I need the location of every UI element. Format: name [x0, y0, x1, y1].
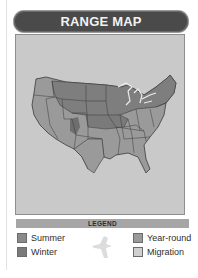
legend-label-year-round: Year-round	[147, 233, 191, 243]
legend-header: LEGEND	[16, 219, 189, 228]
central-range	[86, 115, 128, 129]
legend-label-summer: Summer	[31, 233, 65, 243]
legend-title: LEGEND	[88, 220, 117, 227]
legend-item-migration: Migration	[133, 247, 184, 257]
summer-swatch	[17, 233, 27, 243]
migration-swatch	[133, 247, 143, 257]
page-edge-line	[6, 0, 7, 270]
legend-label-winter: Winter	[31, 247, 57, 257]
range-map	[15, 34, 185, 215]
bird-silhouette-icon	[90, 234, 114, 260]
legend-item-winter: Winter	[17, 247, 57, 257]
page-title: RANGE MAP	[60, 14, 141, 29]
us-map-graphic	[16, 35, 186, 216]
winter-swatch	[17, 247, 27, 257]
year-round-swatch	[133, 233, 143, 243]
legend-label-migration: Migration	[147, 247, 184, 257]
title-banner: RANGE MAP	[14, 11, 188, 32]
legend-item-year-round: Year-round	[133, 233, 191, 243]
legend-item-summer: Summer	[17, 233, 65, 243]
